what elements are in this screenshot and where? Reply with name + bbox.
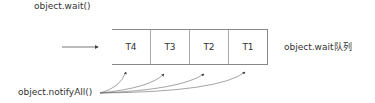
notify-arrow-t3 <box>100 74 164 93</box>
queue-cell-t2: T2 <box>189 30 228 64</box>
notify-all-label: object.notifyAll() <box>18 87 92 97</box>
queue-cell-t1: T1 <box>228 30 267 64</box>
wait-queue: T4 T3 T2 T1 <box>112 29 268 65</box>
queue-cell-t3: T3 <box>150 30 189 64</box>
wait-call-label: object.wait() <box>34 1 91 11</box>
queue-cell-t4: T4 <box>112 30 150 64</box>
notify-arrow-t2 <box>100 74 204 93</box>
wait-queue-label: object.wait队列 <box>284 40 352 53</box>
